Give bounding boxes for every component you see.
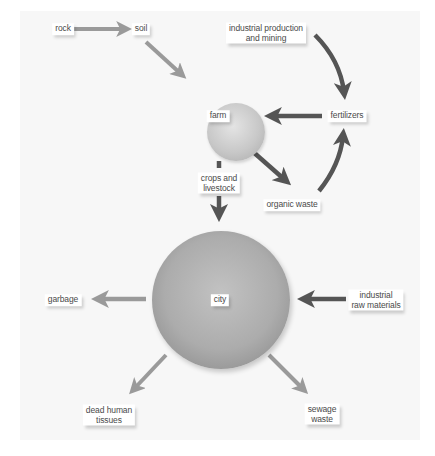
node-garbage: garbage: [45, 294, 82, 306]
arrow-farm-organicwaste: [251, 150, 285, 180]
node-soil: soil: [132, 23, 150, 35]
arrow-soil-farm: [146, 42, 181, 74]
flow-arrows: [0, 0, 435, 456]
arrow-organicwaste-fertilizers: [319, 136, 343, 191]
arrow-city-deadtissues: [134, 355, 166, 389]
node-fertilizers: fertilizers: [328, 110, 367, 122]
node-sewage-waste: sewage waste: [305, 404, 340, 425]
node-industrial-raw-materials: industrial raw materials: [348, 290, 403, 311]
node-crops-livestock: crops and livestock: [198, 173, 240, 194]
node-rock: rock: [52, 23, 74, 35]
node-organic-waste: organic waste: [263, 199, 320, 211]
arrow-industrial-fertilizers: [315, 35, 344, 92]
node-industrial-production: industrial production and mining: [226, 23, 306, 44]
node-dead-human-tissues: dead human tissues: [83, 405, 135, 426]
node-farm: farm: [207, 110, 230, 122]
arrow-city-sewage: [269, 355, 303, 389]
node-city: city: [211, 294, 229, 306]
